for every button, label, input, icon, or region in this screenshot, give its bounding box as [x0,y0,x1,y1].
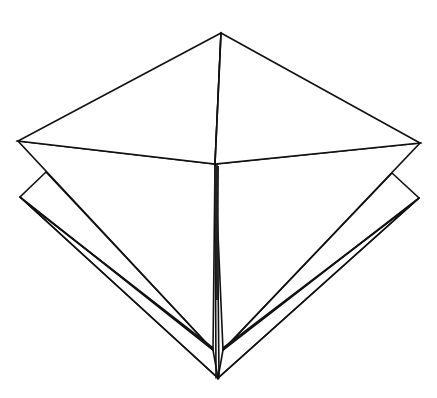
top-right-face [215,33,420,164]
right-flap-second-crease [223,205,411,348]
diagram-canvas [0,0,437,398]
left-kite-face [18,141,215,350]
left-flap-second-crease [28,204,213,348]
origami-diagram [0,0,437,398]
top-left-face [18,33,221,164]
right-kite-face [215,143,420,350]
